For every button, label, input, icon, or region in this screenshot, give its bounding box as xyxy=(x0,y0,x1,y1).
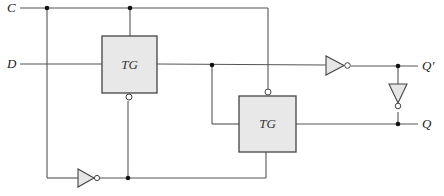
junction-dots xyxy=(45,6,401,181)
input-label-c: C xyxy=(7,0,16,15)
output-label-q: Q xyxy=(422,116,432,131)
junction-dot xyxy=(396,64,401,69)
tg1-inversion-bubble xyxy=(126,94,132,100)
junction-dot xyxy=(126,176,131,181)
forward-inverter xyxy=(326,56,350,75)
transmission-gate-1: TG xyxy=(102,36,157,100)
tg2-inversion-bubble xyxy=(265,89,271,95)
circuit-diagram: TG TG C D Q' Q xyxy=(0,0,444,196)
junction-dot xyxy=(396,122,401,127)
junction-dot xyxy=(128,6,133,11)
feedback-inverter xyxy=(389,84,407,109)
tg2-label: TG xyxy=(259,116,276,131)
output-label-qprime: Q' xyxy=(422,58,434,73)
junction-dot xyxy=(210,63,215,68)
transmission-gate-2: TG xyxy=(239,89,296,152)
clock-inverter xyxy=(78,169,100,187)
tg1-label: TG xyxy=(121,57,138,72)
q-wire xyxy=(296,112,418,124)
feedback-inverter-bubble xyxy=(395,103,401,109)
input-label-d: D xyxy=(6,56,17,71)
qprime-wire xyxy=(351,66,418,84)
clock-inverter-bubble xyxy=(94,175,99,180)
forward-inverter-bubble xyxy=(345,63,351,69)
junction-dot xyxy=(45,6,50,11)
